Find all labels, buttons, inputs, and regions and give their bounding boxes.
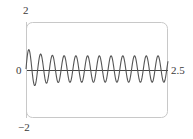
y-tick-label-top: 2	[23, 5, 29, 16]
x-tick-label-end: 2.5	[171, 65, 185, 76]
series-line-response	[26, 50, 168, 86]
plot-area	[0, 0, 193, 139]
x-tick-label-origin: 0	[16, 65, 22, 76]
chart: 2 0 2.5 −2	[0, 0, 193, 139]
y-tick-label-bottom: −2	[18, 122, 30, 133]
